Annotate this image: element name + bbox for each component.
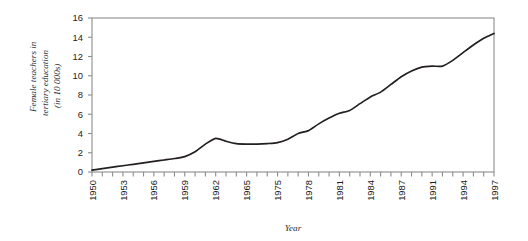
line-chart: 0246810121416 19501953195619591962196519… [0,0,528,241]
y-axis-tick-label: 0 [78,166,83,177]
y-axis-title-line-2: tertiary education [40,50,50,116]
y-axis-tick-label: 16 [73,12,83,23]
y-axis-title-line-3: (in 10 000s) [52,64,62,108]
x-axis-tick-label: 1997 [489,180,500,201]
x-axis-tick-label: 1981 [334,180,345,201]
x-axis-tick-label: 1953 [118,180,129,201]
y-axis-tick-label: 6 [78,109,83,120]
x-axis-tick-label: 1962 [210,180,221,201]
x-axis-tick-label: 1984 [365,180,376,201]
y-axis-tick-label: 4 [78,128,83,139]
y-axis-tick-label: 14 [73,32,83,43]
x-axis-tick-label: 1978 [303,180,314,201]
y-axis-tick-label: 2 [78,147,83,158]
x-axis-tick-label: 1959 [179,180,190,201]
x-axis-tick-label: 1956 [148,180,159,201]
x-axis-tick-label: 1994 [458,180,469,201]
y-axis-tick-label: 10 [73,70,83,81]
y-axis-tick-label: 8 [78,89,83,100]
x-axis-tick-label: 1991 [427,180,438,201]
x-axis-title: Year [285,223,302,233]
chart-figure: 0246810121416 19501953195619591962196519… [0,0,528,241]
y-axis-tick-label: 12 [73,51,83,62]
x-axis-tick-label: 1965 [241,180,252,201]
y-axis-title-line-1: Female teachers in [28,41,38,113]
x-axis-tick-label: 1950 [87,180,98,201]
x-axis-tick-label: 1987 [396,180,407,201]
x-axis-tick-label: 1975 [272,180,283,201]
